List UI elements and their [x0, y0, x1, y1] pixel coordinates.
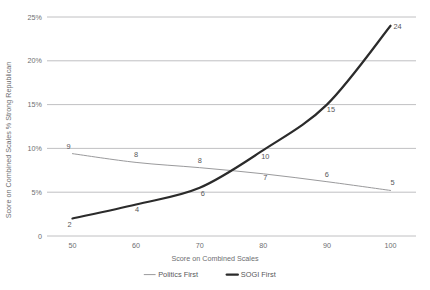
gridlines [47, 17, 416, 236]
y-axis-tick-labels: 05%10%15%20%25% [28, 13, 43, 241]
data-point-label: 2 [67, 220, 71, 229]
y-tick-label: 0 [38, 232, 42, 241]
y-tick-label: 15% [28, 100, 43, 109]
x-tick-label: 100 [385, 241, 397, 250]
x-tick-label: 80 [259, 241, 267, 250]
legend-label-1[interactable]: SOGI First [241, 270, 276, 279]
data-point-label: 6 [325, 170, 329, 179]
x-axis-title: Score on Combined Scales [171, 254, 259, 263]
data-point-label: 24 [393, 22, 401, 31]
x-tick-label: 70 [196, 241, 204, 250]
data-point-label: 10 [261, 152, 269, 161]
data-point-label: 8 [134, 150, 138, 159]
data-point-label: 8 [198, 156, 202, 165]
y-tick-label: 10% [28, 144, 43, 153]
data-point-label: 4 [135, 205, 139, 214]
data-point-label: 5 [390, 178, 394, 187]
series-line-politics-first [72, 154, 390, 191]
x-tick-label: 90 [323, 241, 331, 250]
y-tick-label: 20% [28, 56, 43, 65]
y-tick-label: 25% [28, 13, 43, 22]
x-axis-tick-labels: 5060708090100 [68, 241, 396, 250]
legend-label-0[interactable]: Politics First [158, 270, 198, 279]
data-point-label: 7 [263, 173, 267, 182]
y-tick-label: 5% [32, 188, 43, 197]
x-tick-label: 50 [68, 241, 76, 250]
data-point-label: 6 [201, 189, 205, 198]
data-series [72, 26, 390, 219]
legend: Politics FirstSOGI First [144, 270, 276, 279]
data-point-label: 15 [327, 105, 335, 114]
x-tick-label: 60 [132, 241, 140, 250]
data-point-label: 9 [66, 142, 70, 151]
series-line-sogi-first [72, 26, 390, 219]
data-point-labels: 988765246101524 [66, 22, 401, 230]
line-chart: 05%10%15%20%25% 5060708090100 9887652461… [0, 0, 430, 290]
chart-container: 05%10%15%20%25% 5060708090100 9887652461… [0, 0, 430, 290]
y-axis-title: Score on Combined Scales % Strong Republ… [4, 62, 13, 219]
